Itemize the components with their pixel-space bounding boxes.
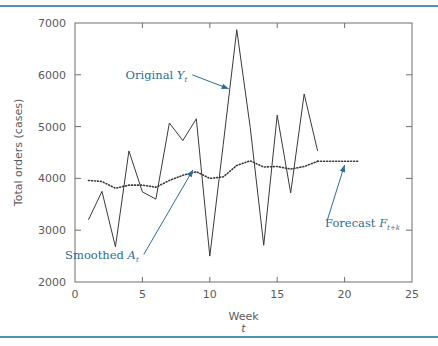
chart-annotations: Original YtSmoothed AtForecast Ft+k [65,68,400,264]
x-tick-label: 0 [72,288,79,301]
x-axis-subtitle: t [241,322,246,335]
annotation-label-original: Original Yt [126,68,188,84]
annotation-original: Original Yt [126,68,229,89]
annotation-arrow-line [327,165,345,221]
x-axis-ticks [142,23,344,282]
x-tick-label: 10 [203,288,217,301]
annotation-label-forecast: Forecast Ft+k [325,216,400,232]
figure-container: 200030004000500060007000 0510152025 Tota… [0,0,438,346]
y-tick-label: 6000 [38,69,66,82]
plot-frame [75,23,412,282]
annotation-forecast: Forecast Ft+k [325,165,400,232]
y-tick-label: 7000 [38,17,66,30]
y-tick-label: 4000 [38,172,66,185]
series-original-line [88,30,317,256]
y-axis-ticks [75,75,412,230]
annotation-smoothed: Smoothed At [65,170,193,264]
x-tick-label: 15 [270,288,284,301]
x-tick-label: 20 [338,288,352,301]
annotation-label-smoothed: Smoothed At [65,248,139,264]
y-axis-title: Total orders (cases) [12,99,25,207]
y-tick-label: 2000 [38,276,66,289]
annotation-arrow-line [144,170,193,255]
x-tick-label: 25 [405,288,419,301]
annotation-arrowhead [221,84,229,89]
x-axis-tick-labels: 0510152025 [72,288,420,301]
y-tick-label: 3000 [38,224,66,237]
y-tick-label: 5000 [38,121,66,134]
annotation-arrowhead [340,165,345,173]
line-chart: 200030004000500060007000 0510152025 Tota… [0,0,438,346]
y-axis-tick-labels: 200030004000500060007000 [38,17,66,289]
x-tick-label: 5 [139,288,146,301]
